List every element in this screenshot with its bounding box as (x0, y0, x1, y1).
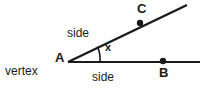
angle-label-x: x (105, 42, 111, 53)
angle-diagram-canvas: vertex A B C side side x (0, 0, 204, 90)
point-c-label: C (137, 2, 146, 15)
side-label-lower: side (92, 71, 114, 83)
point-c-dot (137, 20, 143, 26)
vertex-label: vertex (5, 65, 38, 77)
point-b-label: B (159, 66, 168, 79)
point-b-dot (160, 58, 166, 64)
side-label-upper: side (67, 27, 89, 39)
point-a-label: A (55, 51, 64, 64)
angle-arc (98, 47, 101, 62)
